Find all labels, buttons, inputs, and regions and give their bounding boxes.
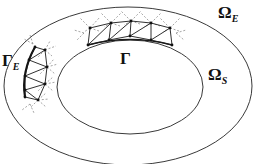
gamma-e-mesh-dashed-edges	[22, 35, 58, 113]
label-gamma: Γ	[120, 50, 131, 67]
gamma-e-mesh-patch	[22, 35, 58, 113]
label-omega-e-sub: E	[232, 13, 239, 24]
label-gamma-base: Γ	[120, 49, 131, 68]
gamma-e-mesh-nodes	[24, 46, 49, 102]
label-gamma-e: ΓE	[2, 52, 20, 69]
gamma-mesh-patch	[74, 11, 186, 46]
label-omega-s-sub: S	[222, 75, 228, 86]
label-omega-s-base: Ω	[208, 65, 222, 84]
label-omega-e-base: Ω	[218, 3, 232, 22]
label-omega-s: ΩS	[208, 66, 227, 83]
label-gamma-e-sub: E	[13, 61, 20, 72]
label-gamma-e-base: Γ	[2, 51, 13, 70]
gamma-e-mesh-solid-edges	[25, 47, 47, 100]
figure-container: ΓE Γ ΩE ΩS	[0, 0, 260, 164]
label-omega-e: ΩE	[218, 4, 238, 21]
